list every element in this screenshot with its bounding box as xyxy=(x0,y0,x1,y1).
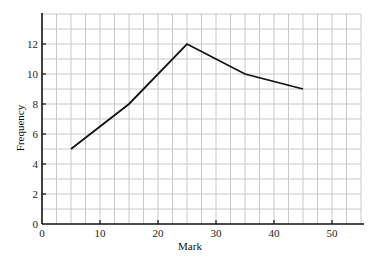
x-tick-label: 0 xyxy=(39,227,45,239)
x-tick-label: 30 xyxy=(211,227,223,239)
x-tick-label: 10 xyxy=(95,227,107,239)
frequency-polygon-chart: 01020304050024681012 Mark Frequency xyxy=(0,0,385,266)
y-tick-label: 2 xyxy=(33,188,39,200)
x-tick-label: 20 xyxy=(153,227,165,239)
y-tick-label: 10 xyxy=(27,68,39,80)
y-tick-label: 0 xyxy=(33,218,39,230)
y-tick-label: 12 xyxy=(27,38,38,50)
x-axis-label: Mark xyxy=(178,240,202,252)
grid-lines xyxy=(42,14,361,224)
x-tick-label: 40 xyxy=(269,227,281,239)
y-axis-label: Frequency xyxy=(14,104,26,151)
x-tick-label: 50 xyxy=(327,227,339,239)
y-tick-label: 4 xyxy=(33,158,39,170)
y-tick-label: 8 xyxy=(33,98,39,110)
y-tick-label: 6 xyxy=(33,128,39,140)
